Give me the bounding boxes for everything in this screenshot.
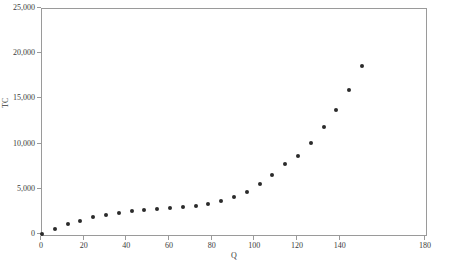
data-point (117, 211, 121, 215)
data-point (168, 206, 172, 210)
data-point (181, 205, 185, 209)
plot-area (42, 9, 426, 235)
y-tick-label: 5,000 (17, 182, 35, 195)
data-point (194, 204, 198, 208)
data-point (130, 209, 134, 213)
data-point (142, 208, 146, 212)
data-point (334, 108, 338, 112)
data-point (219, 199, 223, 203)
data-point (296, 154, 300, 158)
data-point (245, 190, 249, 194)
chart-figure: TC 05,00010,00015,00020,00025,000 020406… (0, 0, 454, 275)
data-point (360, 64, 364, 68)
plot-frame (41, 8, 427, 236)
data-point (347, 88, 351, 92)
x-axis-title: Q (41, 251, 427, 260)
data-point (283, 162, 287, 166)
data-point (104, 213, 108, 217)
data-point (206, 202, 210, 206)
data-point (270, 173, 274, 177)
y-tick-label: 0 (31, 227, 35, 240)
data-point (66, 222, 70, 226)
y-tick-label: 15,000 (13, 91, 35, 104)
y-axis-ticks: 05,00010,00015,00020,00025,000 (0, 0, 41, 236)
y-tick-label: 25,000 (13, 1, 35, 14)
data-point (309, 141, 313, 145)
data-point (322, 125, 326, 129)
data-point (155, 207, 159, 211)
y-tick-label: 10,000 (13, 137, 35, 150)
data-point (232, 195, 236, 199)
data-point (91, 215, 95, 219)
data-point (53, 227, 57, 231)
data-point (78, 219, 82, 223)
data-point (258, 182, 262, 186)
y-tick-label: 20,000 (13, 46, 35, 59)
